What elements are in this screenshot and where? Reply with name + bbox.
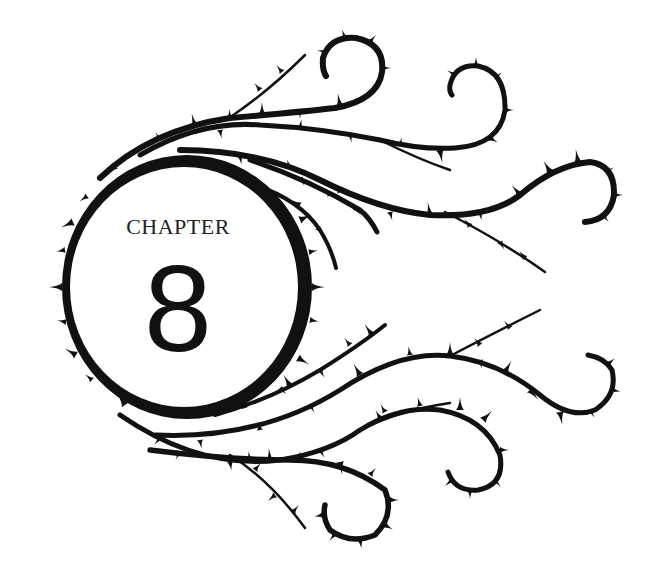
thorn-wreath-ornament: [0, 0, 653, 581]
chapter-number: 8: [118, 244, 238, 374]
chapter-label: CHAPTER: [83, 214, 273, 240]
